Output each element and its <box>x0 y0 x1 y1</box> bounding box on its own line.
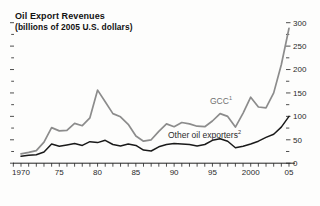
y-tick-label-100: 100 <box>293 112 307 121</box>
series-label-gcc-text: GCC <box>210 96 229 106</box>
x-tick-label-1970: 1970 <box>12 168 30 177</box>
x-tick-label-1990: 90 <box>170 168 179 177</box>
y-tick-label-300: 300 <box>293 19 307 28</box>
y-tick-label-200: 200 <box>293 65 307 74</box>
y-tick-label-50: 50 <box>293 136 302 145</box>
series-label-other-text: Other oil exporters <box>168 130 238 140</box>
y-tick-label-150: 150 <box>293 89 307 98</box>
gcc-line <box>21 28 289 154</box>
x-tick-label-1980: 80 <box>93 168 102 177</box>
x-tick-label-1975: 75 <box>55 168 64 177</box>
y-tick-label-0: 0 <box>293 159 298 168</box>
chart-title: Oil Export Revenues <box>15 11 133 22</box>
x-tick-label-2000: 2000 <box>242 168 260 177</box>
y-tick-label-250: 250 <box>293 42 307 51</box>
footnote-marker-2: 2 <box>238 129 241 135</box>
figure-oil-export-revenues: 19707580859095200005050100150200250300 O… <box>0 0 320 206</box>
footnote-marker-1: 1 <box>229 95 232 101</box>
chart-subtitle: (billions of 2005 U.S. dollars) <box>15 22 133 33</box>
series-label-gcc: GCC1 <box>210 96 232 106</box>
x-tick-label-1985: 85 <box>131 168 140 177</box>
x-tick-label-2005: 05 <box>285 168 294 177</box>
x-tick-label-1995: 95 <box>208 168 217 177</box>
series-label-other-oil-exporters: Other oil exporters2 <box>168 130 241 140</box>
chart-title-block: Oil Export Revenues (billions of 2005 U.… <box>15 11 133 33</box>
